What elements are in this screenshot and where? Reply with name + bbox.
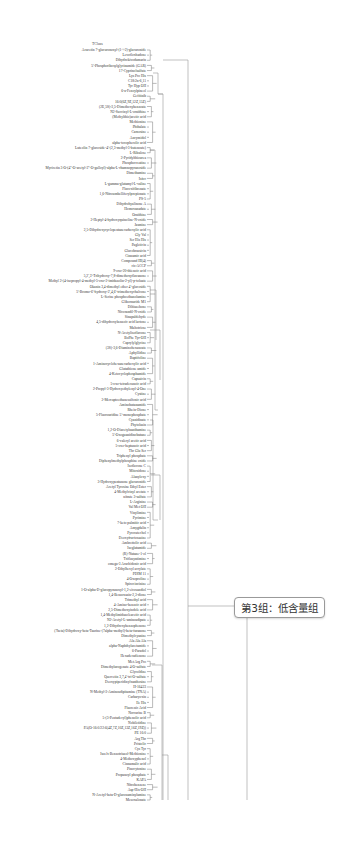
leaf-label: nitrate 3-sulfate bbox=[123, 495, 146, 499]
leaf-label: Dihydrohyalinone A bbox=[117, 202, 147, 206]
leaf-label: (7beta)-Dihydroxy-beta-Taurine-(7alpha-m… bbox=[54, 629, 146, 633]
leaf-label: Homovanadate bbox=[124, 207, 146, 211]
leaf-label: Cyanidinate bbox=[129, 418, 147, 422]
leaf-label: 6-a-Fenoylpineol bbox=[121, 89, 146, 93]
leaf-label: Nicorandil-N-oxide bbox=[118, 310, 147, 314]
leaf-label: Cystine bbox=[135, 392, 146, 396]
leaf-label: (Methylthio)acetic acid bbox=[112, 115, 146, 119]
leaf-label: Baptifoline bbox=[130, 356, 147, 360]
leaf-label: Thr Glu Ser bbox=[129, 449, 147, 453]
leaf-label: Cinnamalic acid bbox=[123, 762, 147, 766]
leaf-label: KAPA bbox=[137, 778, 147, 782]
leaf-label: L-Arginine bbox=[130, 500, 147, 504]
leaf-label: Phthalate bbox=[133, 125, 147, 129]
leaf-label: Glycoldine bbox=[130, 670, 146, 674]
leaf-label: Deoxyfructosazine bbox=[119, 536, 147, 540]
leaf-label: Carbaryoxin bbox=[128, 695, 146, 699]
leaf-label: Glutathione amide bbox=[119, 367, 146, 371]
leaf-label: 5'-Phosphoribosylglycinamide (GAR) bbox=[91, 64, 146, 68]
leaf-label: Dimethylurogenate 4-O-sulfate bbox=[101, 665, 146, 669]
leaf-label: BoPhe Tyr-OH bbox=[124, 336, 146, 340]
group-callout-text: 第3组：低含量组 bbox=[241, 600, 318, 615]
leaf-label: Flavoxifibrenate bbox=[122, 187, 146, 191]
leaf-label: Carnosine bbox=[131, 130, 146, 134]
leaf-label: 6-Paradol bbox=[132, 649, 146, 653]
leaf-label: Nobiletidine bbox=[128, 721, 146, 725]
leaf-label: 2-Propyl-3-Hydroxyethylenyl-4-One bbox=[93, 387, 147, 391]
leaf-label: Diltiazehone bbox=[128, 305, 147, 309]
leaf-label: 2-Heptyl-4-hydroxyquinoline-N-oxide bbox=[91, 218, 147, 222]
leaf-label: 4-Amino-benzoic acid bbox=[114, 603, 146, 607]
leaf-label: cis-ACCP bbox=[131, 264, 146, 268]
leaf-label: Ala Ala Ala bbox=[129, 639, 146, 643]
leaf-label: Arg Thr bbox=[134, 737, 146, 741]
leaf-label: (R)-Nutane-1-ol bbox=[123, 552, 146, 556]
leaf-label: Triflusyntimine bbox=[124, 557, 147, 561]
leaf-label: 17-Cyprinolsulfate bbox=[119, 69, 147, 73]
leaf-label: Vinylimine bbox=[130, 511, 147, 515]
leaf-label: Lys Pro His bbox=[129, 74, 147, 78]
leaf-label: Glucobrassicin bbox=[124, 249, 146, 253]
leaf-label: Trimethyl acid bbox=[125, 598, 146, 602]
leaf-label: 4-Oxoproline bbox=[127, 577, 147, 581]
leaf-label: Isoelv Benzotriazol-Methionine bbox=[100, 752, 146, 756]
leaf-label: Hexadecadienone bbox=[120, 654, 146, 658]
leaf-label: Phosphocreatine bbox=[122, 161, 146, 165]
leaf-label: Ornithine bbox=[132, 213, 146, 217]
group-callout-box: 第3组：低含量组 bbox=[234, 597, 325, 618]
leaf-label: L-gamma-glutamyl-L-valine bbox=[105, 182, 147, 186]
leaf-label: Spirocincinine bbox=[125, 582, 146, 586]
leaf-label: Caprylylglycine bbox=[123, 341, 147, 345]
leaf-label: Dimethylcyanine bbox=[121, 634, 146, 638]
leaf-label: N2-Acetyl-L-aminoadipate bbox=[107, 618, 147, 622]
leaf-label: Ile His bbox=[136, 701, 146, 705]
leaf-label: 4-Ketocyclophosphamide bbox=[109, 372, 146, 376]
leaf-label: Cys Tyr bbox=[135, 747, 147, 751]
leaf-label: Norcurine B bbox=[128, 711, 146, 715]
leaf-label: Fluorenic Acid bbox=[125, 706, 147, 710]
leaf-label: Acacetin 7-glucuronosyl-(1->2)-glucuroni… bbox=[82, 48, 147, 52]
leaf-label: Pagleticin bbox=[132, 243, 147, 247]
leaf-label: Rhein-Dione bbox=[127, 408, 146, 412]
leaf-label: Amygdalin bbox=[130, 526, 146, 530]
leaf-label: Pyrimine bbox=[133, 516, 147, 520]
leaf-label: Maltotriose bbox=[129, 326, 146, 330]
leaf-label: Sinapaldehyde bbox=[125, 315, 147, 319]
leaf-label: Aminobutanamide bbox=[119, 403, 146, 407]
leaf-label: Dimethamine bbox=[126, 171, 146, 175]
leaf-label: Ambrettolic acid bbox=[122, 541, 146, 545]
leaf-label: N-Acetyl-beta-D-glucosaminylamine bbox=[92, 793, 146, 797]
leaf-label: Alanyloxy bbox=[131, 475, 146, 479]
leaf-label: Gly Val bbox=[135, 233, 146, 237]
leaf-label: 5-oxo-heptanoic acid bbox=[116, 444, 147, 448]
leaf-label: alpha-Naphthylacetamide bbox=[109, 644, 146, 648]
leaf-label: Ancymidol bbox=[130, 136, 146, 140]
leaf-label: Methyl 2-(4-isopropyl-4-methyl-5-oxo-2-i… bbox=[48, 279, 146, 283]
leaf-label: 5-Fluorouridine 5'-monophosphate bbox=[96, 413, 146, 417]
leaf-label: Jasmine bbox=[134, 223, 146, 227]
leaf-label: 3-Hydroxypentanone glucuronide bbox=[97, 480, 146, 484]
leaf-label: Deoxypiperidinylxanthosine bbox=[105, 680, 146, 684]
leaf-label: 4-Methylvinyl acetate bbox=[114, 490, 146, 494]
leaf-label: Compound III(4) bbox=[121, 259, 146, 263]
leaf-label: N-Methyl-3-Aminoadipitamine (TNA) bbox=[90, 690, 147, 694]
leaf-label: Capsaicin bbox=[132, 377, 146, 381]
leaf-label: 1-Aminocyclohexanecarboxylic acid bbox=[93, 362, 146, 366]
leaf-label: Met Arg Pro bbox=[128, 660, 146, 664]
leaf-label: L-Serine phosphoethanolamine bbox=[101, 295, 146, 299]
leaf-label: 5-(3-Pentadecyl)phenolic acid bbox=[103, 716, 147, 720]
leaf-label: Asp-His-OH bbox=[128, 788, 147, 792]
leaf-label: 6-valeryl acetic acid bbox=[117, 439, 146, 443]
leaf-label: Val Met OH bbox=[128, 505, 146, 509]
leaf-label: Pristolic bbox=[134, 742, 146, 746]
leaf-label: Nitrobenzene bbox=[127, 783, 147, 787]
leaf-label: Pinocytonine bbox=[127, 767, 146, 771]
leaf-label: PDIM 11 bbox=[133, 572, 147, 576]
leaf-label: Triphenyl phosphate bbox=[116, 454, 146, 458]
leaf-label: Pyrocatechol bbox=[127, 531, 146, 535]
leaf-label: PS-5 bbox=[139, 197, 146, 201]
leaf-label: Glibornuride M1 bbox=[122, 300, 147, 304]
leaf-label: N-Acetylisoflavone bbox=[118, 331, 147, 335]
leaf-label: Methionine bbox=[129, 120, 146, 124]
leaf-label: omega-3 Arachidonic acid bbox=[108, 562, 146, 566]
